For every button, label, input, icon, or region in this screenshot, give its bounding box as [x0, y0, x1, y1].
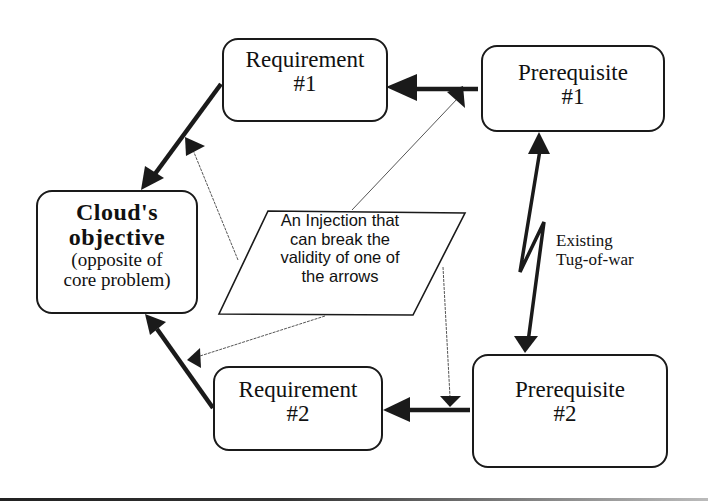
- arrow-pre1-to-req1: [386, 74, 478, 101]
- arrow-req2-to-objective: [145, 314, 213, 408]
- tug-label-line-2: Tug-of-war: [556, 251, 634, 270]
- requirement-1-node[interactable]: Requirement #1: [222, 38, 388, 122]
- objective-title-line1: Cloud's: [76, 200, 158, 225]
- evaporating-cloud-diagram: Requirement #1 Prerequisite #1 Cloud's o…: [0, 0, 708, 504]
- objective-title-line2: objective: [69, 225, 165, 250]
- requirement-2-title: Requirement: [239, 378, 358, 402]
- arrow-req1-to-objective: [141, 84, 221, 190]
- injection-line-4: the arrows: [240, 267, 440, 286]
- requirement-2-number: #2: [287, 402, 310, 426]
- objective-subtitle-line2: core problem): [63, 270, 170, 290]
- cloud-objective-node[interactable]: Cloud's objective (opposite of core prob…: [36, 190, 198, 314]
- prerequisite-2-title: Prerequisite: [515, 378, 625, 402]
- injection-line-2: can break the: [240, 230, 440, 249]
- prerequisite-1-node[interactable]: Prerequisite #1: [481, 45, 665, 132]
- injection-node-text[interactable]: An Injection that can break the validity…: [240, 211, 440, 286]
- arrow-pre2-to-req2: [383, 397, 470, 422]
- injection-link-to-pre2-arrow: [440, 267, 461, 407]
- prerequisite-1-number: #1: [562, 85, 585, 109]
- prerequisite-2-number: #2: [554, 402, 577, 426]
- conflict-arrow-tug-of-war: [514, 132, 550, 353]
- bottom-divider: [0, 498, 708, 501]
- requirement-1-title: Requirement: [246, 48, 365, 72]
- tug-label-line-1: Existing: [556, 232, 634, 251]
- tug-of-war-label: Existing Tug-of-war: [556, 232, 634, 269]
- injection-link-to-req2-arrow: [187, 316, 325, 368]
- prerequisite-2-node[interactable]: Prerequisite #2: [472, 354, 668, 468]
- injection-line-1: An Injection that: [240, 211, 440, 230]
- prerequisite-1-title: Prerequisite: [518, 61, 628, 85]
- requirement-2-node[interactable]: Requirement #2: [213, 366, 383, 451]
- requirement-1-number: #1: [294, 72, 317, 96]
- injection-line-3: validity of one of: [240, 248, 440, 267]
- objective-subtitle-line1: (opposite of: [71, 250, 162, 270]
